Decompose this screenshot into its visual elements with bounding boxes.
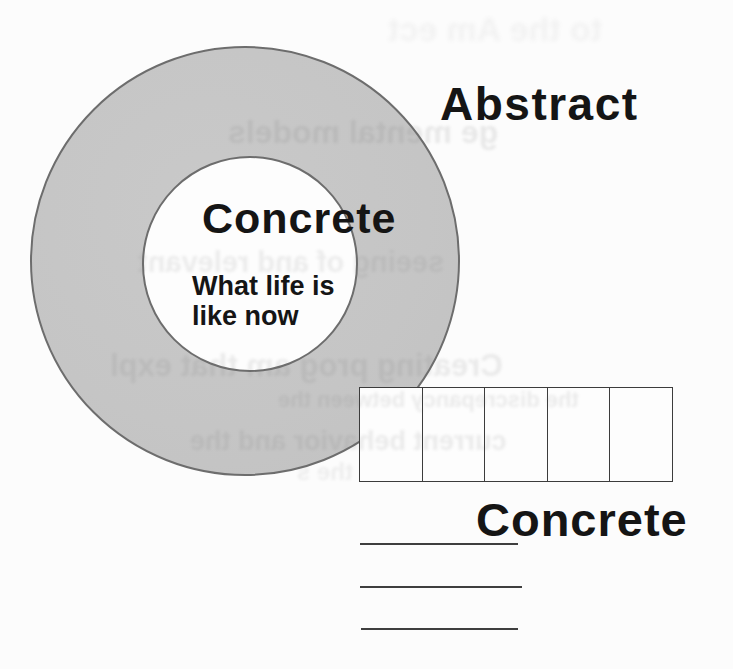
strip-cell — [610, 388, 672, 481]
abstract-label: Abstract — [440, 81, 639, 127]
strip-cell — [360, 388, 423, 481]
strip-cell — [485, 388, 548, 481]
concrete-inner-label: Concrete — [202, 197, 396, 240]
strip-cell — [423, 388, 486, 481]
ghost-text-line: to the Am ect — [388, 12, 602, 46]
blank-line — [361, 628, 518, 630]
inner-circle-caption-line1: What life is — [192, 271, 335, 301]
sequence-strip — [359, 387, 673, 482]
inner-circle-caption-line2: like now — [192, 301, 335, 331]
strip-cell — [548, 388, 611, 481]
scanned-diagram-page: to the Am ect ge mental models seeing of… — [0, 0, 733, 669]
blank-line — [360, 586, 522, 588]
concrete-bottom-label: Concrete — [476, 496, 688, 543]
concrete-inner-circle — [142, 156, 358, 372]
inner-circle-caption: What life is like now — [192, 271, 335, 331]
